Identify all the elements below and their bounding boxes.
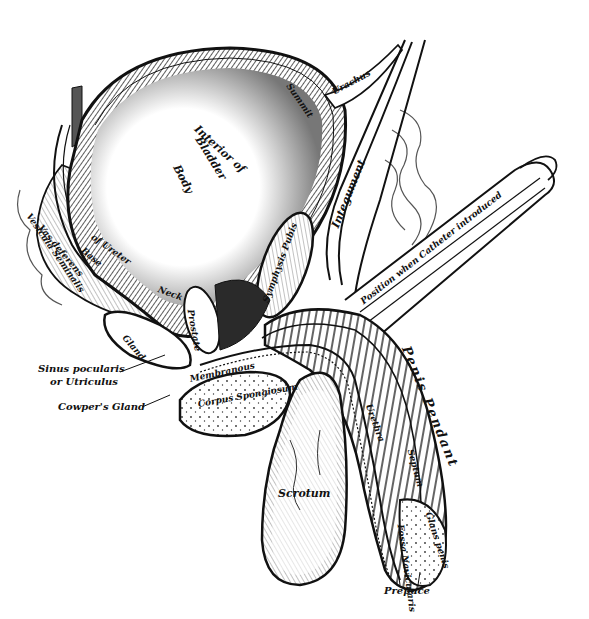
label-sinus-pocularis: Sinus pocularis	[38, 364, 125, 374]
label-scrotum: Scrotum	[278, 488, 331, 499]
label-prepuce: Prepuce	[384, 586, 430, 596]
catheter-position	[345, 156, 556, 335]
label-or-utriculus: or Utriculus	[50, 377, 118, 387]
label-cowpers-gland: Cowper's Gland	[58, 402, 145, 412]
